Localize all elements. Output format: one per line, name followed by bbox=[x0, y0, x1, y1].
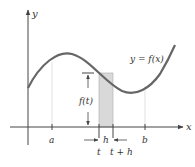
curve-label: y = f(x) bbox=[129, 54, 164, 64]
shaded-strip bbox=[99, 73, 113, 127]
width-label-h: h bbox=[103, 135, 109, 145]
tick-b: b bbox=[142, 135, 148, 145]
y-axis-label: y bbox=[31, 8, 38, 19]
height-label-ft: f(t) bbox=[78, 96, 93, 106]
tick-t-plus-h: t + h bbox=[110, 147, 133, 157]
tick-t: t bbox=[97, 147, 101, 157]
area-diagram: y x y = f(x) a b t t + h h f(t) bbox=[0, 0, 195, 167]
tick-a: a bbox=[49, 135, 54, 145]
x-axis-label: x bbox=[186, 121, 192, 132]
